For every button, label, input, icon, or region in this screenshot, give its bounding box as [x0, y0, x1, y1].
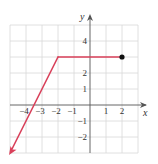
y-tick: 2 — [83, 68, 88, 78]
x-tick: −2 — [51, 106, 61, 116]
x-tick: 1 — [104, 106, 109, 116]
closed-endpoint-dot — [119, 54, 124, 59]
x-tick: −4 — [19, 106, 29, 116]
sloped-segment — [12, 57, 58, 149]
y-tick: −1 — [77, 116, 87, 126]
x-tick: −1 — [67, 106, 77, 116]
grid — [10, 25, 138, 153]
y-tick: 1 — [83, 84, 88, 94]
graph: x y −4 −3 −2 −1 1 2 4 2 1 −1 −2 — [0, 0, 158, 164]
x-tick: −3 — [35, 106, 45, 116]
x-tick-labels: −4 −3 −2 −1 1 2 — [19, 106, 124, 116]
y-tick: 4 — [83, 36, 88, 46]
x-axis-label: x — [142, 107, 148, 118]
function-graph — [12, 57, 122, 149]
y-axis-label: y — [79, 11, 85, 22]
y-tick: −2 — [77, 132, 87, 142]
x-tick: 2 — [120, 106, 125, 116]
